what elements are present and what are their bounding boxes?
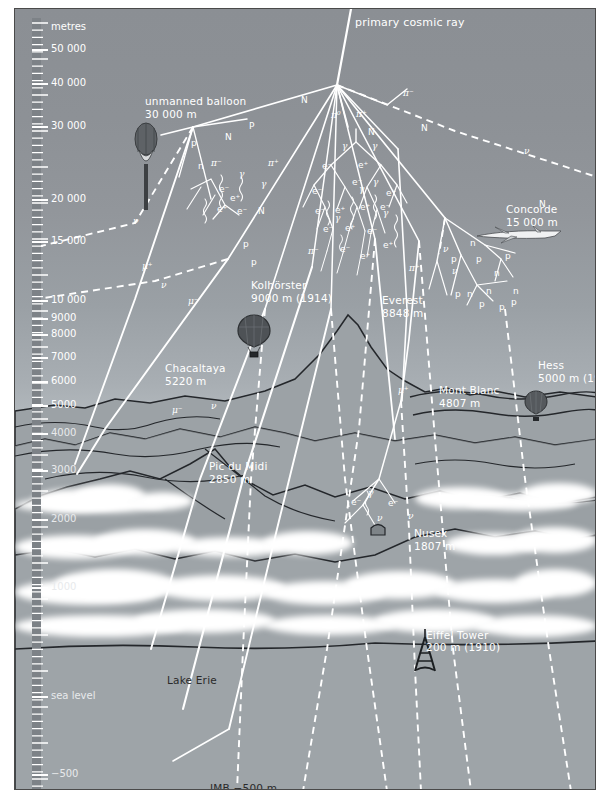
particle-label: e⁺ [383,241,393,250]
particle-label: n [198,162,204,171]
particle-label: γ [239,170,244,179]
particle-label: e⁻ [312,187,322,196]
particle-label: π⁻ [211,159,222,168]
hess-balloon-icon [524,390,548,423]
particle-label: π⁺ [268,159,279,168]
particle-label: ν [524,147,529,156]
scale-tick-label: 3000 [51,465,76,475]
scale-major-tick [32,433,48,435]
scale-tick-label: 5000 [51,400,76,410]
scale-tick-label: 1000 [51,582,76,592]
particle-label: N [301,96,308,105]
particle-label: e⁻ [237,207,247,216]
particle-label: n [467,290,473,299]
particle-label: p [191,139,197,148]
particle-label: e⁺ [358,161,368,170]
scale-tick-label: 7000 [51,352,76,362]
cosmic-ray-diagram: metres50 00040 00030 00020 00015 00010 0… [0,0,609,798]
particle-label: e⁻ [388,499,398,508]
particle-label: N [225,133,232,142]
particle-label: ν [377,514,382,523]
particle-label: μ⁺ [142,262,153,271]
particle-label: n [470,239,476,248]
scale-tick-label: 50 000 [51,44,86,54]
particle-label: n [494,269,500,278]
scale-major-tick [32,300,48,302]
scale-major-tick [32,696,48,698]
particle-label: ν [161,281,166,290]
scale-major-tick [32,83,48,85]
particle-label: e⁻ [380,203,390,212]
diagram-frame: metres50 00040 00030 00020 00015 00010 0… [14,8,596,790]
scale-tick-label: 20 000 [51,194,86,204]
scale-major-tick [32,357,48,359]
scale-major-tick [32,199,48,201]
particle-label: e⁺ [230,194,240,203]
scale-tick-label: 9000 [51,313,76,323]
scale-tick-label: 10 000 [51,295,86,305]
particle-label: e⁺ [345,224,355,233]
particle-label: e⁺ [360,252,370,261]
particle-label: p [476,255,482,264]
particle-label: p [479,300,485,309]
scale-tick-label: 4000 [51,428,76,438]
particle-label: π⁻ [308,247,319,256]
particle-label: ν [443,245,448,254]
particle-label: π⁺ [409,264,420,273]
scale-major-tick [32,519,48,521]
particle-label: e⁻ [352,178,362,187]
particle-label: p [451,255,457,264]
scale-tick-label: sea level [51,691,95,701]
particle-label: p [511,298,517,307]
particle-label: ν [408,512,413,521]
scale-tick-label: 6000 [51,376,76,386]
particle-label: n [513,287,519,296]
nusex-detector-icon [370,521,386,535]
kolhorster-balloon-icon [237,314,271,358]
particle-label: e⁻ [323,225,333,234]
unmanned-balloon-icon [133,122,159,212]
particle-label: γ [261,180,266,189]
particle-label: p [251,258,257,267]
particle-label: e⁺ [217,205,227,214]
particle-label: N [368,128,375,137]
particle-label: μ⁺ [398,386,409,395]
particle-label: N [258,207,265,216]
concorde-icon [475,225,565,245]
scale-major-tick [32,318,48,320]
particle-label: ν [211,402,216,411]
particle-label: e⁻ [340,245,350,254]
particle-label: π⁰ [331,111,341,120]
scale-major-tick [32,381,48,383]
particle-label: P [249,122,254,131]
particle-label: π⁺ [356,110,367,119]
scale-major-tick [32,405,48,407]
particle-label: π⁻ [403,89,414,98]
particle-label: γ [373,178,378,187]
scale-tick-label: −500 [51,769,78,779]
particle-label: N [421,124,428,133]
scale-tick-label: 2000 [51,514,76,524]
scale-tick-label: 40 000 [51,78,86,88]
particle-label: γ [342,142,347,151]
particle-label: e⁻ [351,498,361,507]
scale-major-tick [32,774,48,776]
particle-label: p [499,303,505,312]
particle-label: μ⁻ [172,406,183,415]
scale-major-tick [32,241,48,243]
particle-label: e⁺ [360,203,370,212]
particle-label: ν [452,267,457,276]
scale-tick-label: 8000 [51,329,76,339]
particle-label: p [455,290,461,299]
particle-label: μ⁻ [188,297,199,306]
scale-major-tick [32,49,48,51]
scale-major-tick [32,470,48,472]
scale-major-tick [32,334,48,336]
particle-label: e⁺ [386,189,396,198]
scale-tick-label: 15 000 [51,236,86,246]
particle-label: e⁺ [335,206,345,215]
particle-label: γ [335,214,340,223]
scale-ticks [15,9,596,790]
particle-label: e⁻ [315,207,325,216]
particle-label: e⁻ [219,185,229,194]
